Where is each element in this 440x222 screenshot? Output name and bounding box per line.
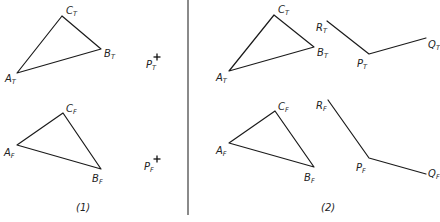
polyline-rpq-f	[328, 100, 426, 174]
vertex-label-c-f: CF	[278, 101, 289, 114]
point-label-p-f: PF	[144, 161, 154, 174]
point-label-r-t: RT	[316, 22, 328, 35]
vertex-label-a-f: AF	[3, 147, 15, 160]
panel-2: ATBTCTAFBFCFRTPTQTRFPFQF(2)	[215, 4, 440, 213]
triangle-t	[17, 16, 101, 73]
vertex-label-a-t: AT	[215, 72, 228, 85]
point-label-r-f: RF	[316, 100, 327, 113]
vertex-label-b-f: BF	[304, 172, 315, 185]
vertex-label-c-t: CT	[66, 5, 78, 18]
point-label-q-f: QF	[428, 168, 440, 181]
panel-caption: (2)	[321, 202, 335, 213]
vertex-label-b-f: BF	[92, 173, 103, 186]
vertex-label-c-f: CF	[66, 103, 77, 116]
point-label-q-t: QT	[428, 39, 440, 52]
vertex-label-b-t: BT	[317, 47, 329, 60]
panel-caption: (1)	[76, 202, 90, 213]
panel-1: ATBTCTAFBFCFPTPF(1)	[3, 5, 161, 213]
point-label-p-t: PT	[357, 58, 368, 71]
point-label-p-f: PF	[356, 162, 366, 175]
vertex-label-c-t: CT	[278, 4, 290, 17]
vertex-label-a-t: AT	[4, 73, 17, 86]
triangle-t	[229, 15, 314, 71]
vertex-label-a-f: AF	[215, 145, 227, 158]
triangle-f	[229, 111, 314, 167]
plus-marker-icon	[154, 54, 161, 61]
triangle-f	[17, 113, 101, 169]
vertex-label-b-t: BT	[104, 48, 116, 61]
polyline-rpq-t	[327, 21, 426, 54]
diagram-canvas: ATBTCTAFBFCFPTPF(1) ATBTCTAFBFCFRTPTQTRF…	[0, 0, 440, 222]
plus-marker-icon	[154, 156, 161, 163]
point-label-p-t: PT	[146, 59, 157, 72]
